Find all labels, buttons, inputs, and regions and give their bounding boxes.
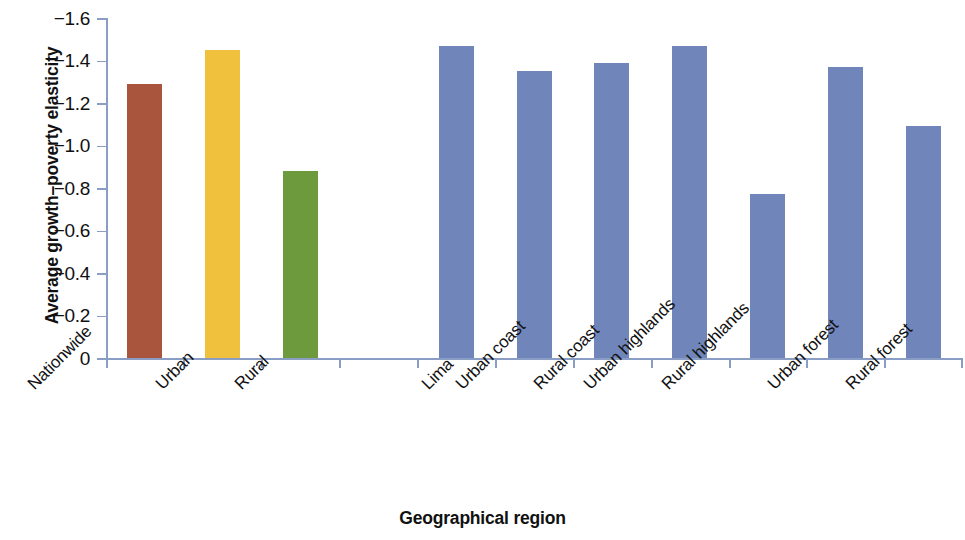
bar-rural-coast [594,63,629,358]
bars-layer [106,18,962,358]
y-tick-mark [97,146,106,148]
bar-urban-coast [517,71,552,358]
y-tick-label: −1.6 [6,8,90,30]
x-tick-mark [729,358,731,368]
y-tick-label: −1.2 [6,93,90,115]
y-tick-mark [97,358,106,360]
bar-rural [283,171,318,358]
bar-rural-highlands [750,194,785,358]
x-tick-mark [106,358,108,368]
y-tick-mark [97,18,106,20]
y-tick-label: −0.8 [6,178,90,200]
y-tick-label: −1.4 [6,50,90,72]
bar-urban-forest [828,67,863,358]
bar-rural-forest [906,126,941,358]
y-tick-mark [97,273,106,275]
x-axis-line [106,358,962,360]
bar-chart: Average growth–poverty elasticity −1.6 −… [0,0,965,540]
x-tick-mark [651,358,653,368]
y-tick-mark [97,188,106,190]
x-tick-mark [417,358,419,368]
y-tick-label: −0.2 [6,305,90,327]
bar-lima [439,46,474,358]
y-tick-mark [97,61,106,63]
bar-urban-highlands [672,46,707,358]
x-tick-mark [339,358,341,368]
y-tick-label: −0.6 [6,220,90,242]
y-tick-mark [97,231,106,233]
bar-urban [205,50,240,358]
x-category-label-lima: Lima [418,354,458,394]
bar-nationwide [127,84,162,358]
y-tick-label: −0.4 [6,263,90,285]
y-tick-mark [97,103,106,105]
x-tick-mark [961,358,963,368]
y-tick-label: −1.0 [6,135,90,157]
x-axis-title: Geographical region [0,508,965,529]
y-tick-mark [97,316,106,318]
